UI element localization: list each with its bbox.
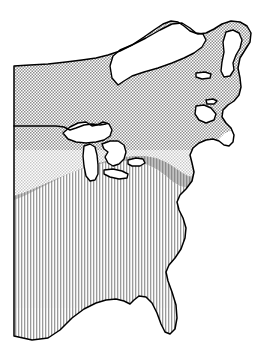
prince-edward-island xyxy=(206,99,217,104)
anticosti-island xyxy=(196,72,211,79)
lake-ontario xyxy=(128,158,145,166)
map-canvas xyxy=(0,0,254,347)
range-distribution-map xyxy=(0,0,254,347)
lake-michigan xyxy=(83,144,98,181)
